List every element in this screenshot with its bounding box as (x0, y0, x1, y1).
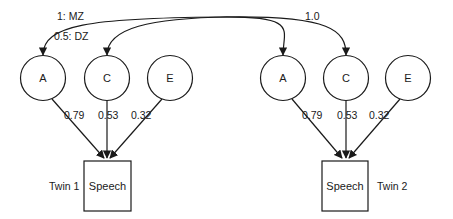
twin1-speech-label: Speech (89, 180, 126, 192)
twin1-latent-e-label: E (166, 72, 173, 84)
twin1-a-loading: 0.79 (64, 109, 85, 121)
twin1-group: A C E 0.79 0.53 0.32 Speech Twin 1 (21, 56, 193, 212)
twin1-e-loading: 0.32 (131, 109, 152, 121)
twin1-c-loading: 0.53 (98, 109, 119, 121)
ace-twin-diagram: 1: MZ 0.5: DZ 1.0 A C E 0.79 0.53 0.32 S… (0, 0, 453, 219)
twin2-latent-e-label: E (404, 72, 411, 84)
twin1-label: Twin 1 (49, 180, 80, 192)
c-correlation-label: 1.0 (305, 10, 320, 22)
twin2-e-path (349, 99, 400, 158)
twin2-latent-a-label: A (279, 72, 287, 84)
a-correlation-dz-label: 0.5: DZ (54, 30, 89, 42)
twin1-a-path (52, 99, 104, 158)
c-correlation-arc (107, 17, 346, 55)
a-correlation-mz-label: 1: MZ (57, 10, 84, 22)
twin2-label: Twin 2 (377, 180, 408, 192)
twin2-a-loading: 0.79 (302, 109, 323, 121)
twin2-c-loading: 0.53 (337, 109, 358, 121)
twin1-e-path (110, 99, 162, 158)
twin2-speech-label: Speech (326, 180, 363, 192)
twin2-e-loading: 0.32 (369, 109, 390, 121)
twin1-latent-a-label: A (39, 72, 47, 84)
twin2-a-path (292, 99, 342, 158)
twin2-group: A C E 0.79 0.53 0.32 Speech Twin 2 (261, 56, 431, 212)
twin1-latent-c-label: C (103, 72, 111, 84)
correlation-arcs: 1: MZ 0.5: DZ 1.0 (43, 10, 346, 55)
twin2-latent-c-label: C (342, 72, 350, 84)
